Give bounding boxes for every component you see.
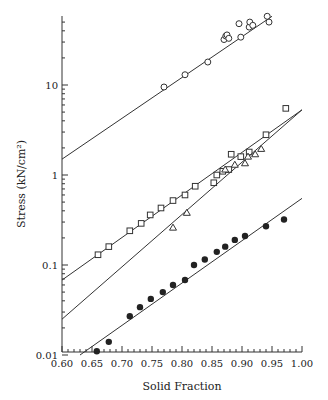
x-tick-label: 0.95 <box>261 358 283 369</box>
data-point <box>148 296 154 302</box>
data-point <box>263 132 269 138</box>
data-point <box>232 237 238 243</box>
data-point <box>238 34 244 40</box>
x-tick-label: 0.70 <box>111 358 133 369</box>
data-point <box>106 339 112 345</box>
data-point <box>236 21 242 27</box>
data-point <box>281 216 287 222</box>
data-point <box>214 172 220 178</box>
data-point <box>242 160 249 166</box>
data-point <box>95 252 101 258</box>
data-point <box>266 19 272 25</box>
y-tick-label: 0.1 <box>42 260 58 271</box>
data-point <box>228 151 234 157</box>
x-tick-label: 0.80 <box>171 358 193 369</box>
data-point <box>182 192 188 198</box>
data-point <box>283 106 289 112</box>
data-point <box>242 233 248 239</box>
chart: 0.600.650.700.750.800.850.900.951.000.01… <box>0 0 328 400</box>
y-tick-label: 10 <box>45 80 58 91</box>
x-tick-label: 1.00 <box>291 358 313 369</box>
data-point <box>202 256 208 262</box>
x-tick-label: 0.75 <box>141 358 163 369</box>
fit-line <box>80 198 302 355</box>
data-point <box>158 205 164 211</box>
data-point <box>191 262 197 268</box>
x-axis-label: Solid Fraction <box>143 380 222 393</box>
data-point <box>238 154 244 160</box>
data-point <box>222 243 228 249</box>
data-point <box>226 35 232 41</box>
data-point <box>258 145 265 151</box>
y-tick-label: 1 <box>52 170 58 181</box>
data-point <box>264 13 270 19</box>
x-tick-label: 0.85 <box>201 358 223 369</box>
x-tick-label: 0.90 <box>231 358 253 369</box>
y-tick-label: 0.01 <box>36 350 58 361</box>
data-point <box>192 183 198 189</box>
data-point <box>231 161 238 167</box>
data-point <box>214 249 220 255</box>
y-axis-label: Stress (kN/cm²) <box>15 140 28 228</box>
data-point <box>205 59 211 65</box>
fit-line <box>62 110 302 319</box>
data-point <box>263 223 269 229</box>
plot-area: 0.600.650.700.750.800.850.900.951.000.01… <box>0 0 328 400</box>
data-point <box>147 212 153 218</box>
data-point <box>170 198 176 204</box>
data-point <box>182 277 188 283</box>
data-point <box>106 244 112 250</box>
data-point <box>182 72 188 78</box>
data-point <box>161 84 167 90</box>
x-tick-label: 0.65 <box>81 358 103 369</box>
data-point <box>160 289 166 295</box>
data-point <box>137 304 143 310</box>
data-point <box>127 313 133 319</box>
data-point <box>94 348 100 354</box>
data-point <box>170 282 176 288</box>
data-point <box>250 22 256 28</box>
data-point <box>127 228 133 234</box>
data-point <box>138 221 144 227</box>
